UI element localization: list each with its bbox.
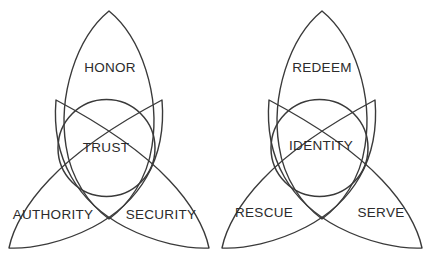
label-right-top: REDEEM (292, 61, 352, 75)
label-left-bottom-left: AUTHORITY (13, 208, 94, 222)
right-lobe-bottom-left (222, 100, 376, 248)
right-lobe-bottom-right (268, 100, 422, 248)
label-left-center: TRUST (83, 141, 130, 155)
label-right-bottom-left: RESCUE (235, 206, 293, 220)
label-left-top: HONOR (84, 61, 136, 75)
label-right-center: IDENTITY (289, 139, 353, 153)
label-left-bottom-right: SECURITY (126, 208, 197, 222)
left-lobe-bottom-right (55, 100, 209, 248)
diagram-canvas: HONOR TRUST AUTHORITY SECURITY REDEEM ID… (0, 0, 432, 259)
left-lobe-bottom-left (9, 100, 163, 248)
label-right-bottom-right: SERVE (357, 206, 404, 220)
